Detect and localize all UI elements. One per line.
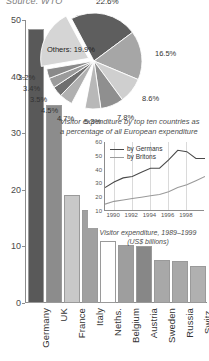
bar-chart-y-tick-label: 20 <box>2 185 21 195</box>
source-note: Source: WTO <box>6 0 63 6</box>
inset-y-tick-label: 40 <box>88 167 102 173</box>
pie-chart-caption: Visitor expenditure by top ten countries… <box>60 117 208 136</box>
pie-caption-line-1: Visitor expenditure by top ten countries… <box>60 117 208 127</box>
inset-x-tick-label: 1994 <box>143 212 156 218</box>
bar-chart-y-axis <box>25 20 26 302</box>
inset-line-chart: 102030405060 19901992199419961998 by Ger… <box>88 140 206 228</box>
inset-legend-swatch <box>110 157 124 158</box>
bar-chart-category-label: UK <box>58 308 69 321</box>
pie-others-label: Others: 19.9% <box>47 45 95 54</box>
inset-y-tick-label: 60 <box>88 139 102 145</box>
bar-chart-category-label: Russia <box>184 308 195 338</box>
inset-y-tick-label: 50 <box>88 153 102 159</box>
pie-slice-label: 3.5% <box>30 95 47 104</box>
inset-legend-item: by Britons <box>110 153 156 160</box>
bar-chart-bar <box>154 260 171 303</box>
inset-series-line <box>105 177 205 205</box>
inset-chart-caption: Visitor expenditure, 1989–1999 (US$ bill… <box>88 228 208 246</box>
bar-chart-y-tick-label: 50 <box>2 15 21 25</box>
pie-slice-label: 16.5% <box>155 49 176 58</box>
bar-chart-category-label: Germany <box>40 308 51 348</box>
bar-chart-category-label: Sweden <box>166 308 177 343</box>
pie-slice-label: 8.6% <box>142 94 159 103</box>
bar-chart-bar <box>64 195 81 303</box>
inset-x-tick-label: 1998 <box>179 212 192 218</box>
bar-chart-y-tick-label: 10 <box>2 241 21 251</box>
inset-y-tick-label: 20 <box>88 194 102 200</box>
bar-chart-category-label: Neths. <box>112 308 123 336</box>
bar-chart-bar <box>190 266 207 303</box>
inset-y-tick-label: 10 <box>88 208 102 214</box>
pie-slice-label: 3.4% <box>23 84 40 93</box>
bar-chart-category-label: France <box>76 308 87 338</box>
pie-slice-label: 3.2% <box>18 73 35 82</box>
pie-slice-label: 4.5% <box>41 106 58 115</box>
bar-chart-category-label: Switz. <box>202 308 209 334</box>
bar-chart-bar <box>100 241 117 303</box>
pie-caption-line-2: a percentage of all European expenditure <box>60 127 208 137</box>
bar-chart-y-tick-mark <box>22 133 25 134</box>
bar-chart-y-tick-mark <box>22 20 25 21</box>
inset-legend-label: by Britons <box>127 153 156 160</box>
bar-chart-bar <box>172 261 189 303</box>
pie-slice-label: 22.6% <box>96 0 119 6</box>
bar-chart-y-tick-mark <box>22 190 25 191</box>
bar-chart-y-tick-label: 0 <box>2 298 21 308</box>
inset-x-tick-label: 1990 <box>106 212 119 218</box>
bar-chart-y-tick-mark <box>22 246 25 247</box>
bar-chart-category-label: Belgium <box>130 308 141 343</box>
bar-chart-y-tick-mark <box>22 303 25 304</box>
inset-caption-line-1: Visitor expenditure, 1989–1999 <box>88 228 208 237</box>
inset-x-tick-label: 1992 <box>125 212 138 218</box>
bar-chart-bar <box>136 246 153 303</box>
inset-legend-swatch <box>110 149 124 150</box>
inset-legend-item: by Germans <box>110 145 162 152</box>
bar-chart-bar <box>118 245 135 303</box>
bar-chart-y-tick-label: 30 <box>2 128 21 138</box>
inset-y-tick-label: 30 <box>88 180 102 186</box>
infographic-root: Source: WTO 01020304050 GermanyUKFranceI… <box>0 0 209 361</box>
bar-chart-category-label: Austria <box>148 308 159 338</box>
pie-chart <box>38 8 158 120</box>
inset-caption-line-2: (US$ billions) <box>88 237 208 246</box>
pie-chart-svg <box>38 8 158 120</box>
bar-chart-category-label: Italy <box>94 308 105 326</box>
inset-x-tick-label: 1996 <box>161 212 174 218</box>
inset-legend-label: by Germans <box>127 145 162 152</box>
